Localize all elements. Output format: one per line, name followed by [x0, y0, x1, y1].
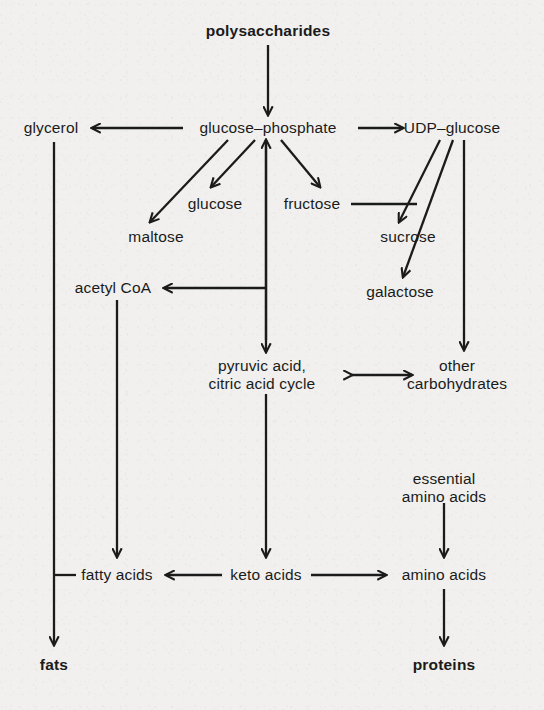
- node-label: pyruvic acid,: [218, 357, 306, 374]
- node-maltose: maltose: [128, 228, 183, 246]
- node-keto_acids: keto acids: [230, 566, 301, 584]
- node-label-line2: citric acid cycle: [209, 374, 316, 392]
- node-label: essential: [413, 470, 476, 487]
- node-udp_glucose: UDP–glucose: [404, 119, 500, 137]
- node-label: keto acids: [230, 566, 301, 583]
- node-label-line2: amino acids: [402, 487, 486, 505]
- node-label: fatty acids: [81, 566, 152, 583]
- node-fats: fats: [40, 656, 68, 674]
- node-polysaccharides: polysaccharides: [206, 22, 330, 40]
- node-glucose: glucose: [188, 195, 242, 213]
- node-label: sucrose: [380, 228, 435, 245]
- node-proteins: proteins: [413, 656, 476, 674]
- edge-udp-glucose-to-sucrose: [399, 140, 440, 222]
- node-amino_acids: amino acids: [402, 566, 486, 584]
- node-label-line2: carbohydrates: [407, 374, 507, 392]
- node-label: glycerol: [24, 119, 79, 136]
- node-label: fructose: [284, 195, 340, 212]
- node-label: other: [439, 357, 475, 374]
- node-label: galactose: [366, 283, 434, 300]
- node-label: polysaccharides: [206, 22, 330, 39]
- node-label: glucose–phosphate: [200, 119, 337, 136]
- node-label: maltose: [128, 228, 183, 245]
- edge-glucose-phosphate-to-glucose: [211, 140, 255, 187]
- node-fatty_acids: fatty acids: [81, 566, 152, 584]
- node-sucrose: sucrose: [380, 228, 435, 246]
- node-essential_aa: essentialamino acids: [402, 470, 486, 505]
- node-acetyl_coa: acetyl CoA: [75, 279, 151, 297]
- node-label: proteins: [413, 656, 476, 673]
- node-pyruvic: pyruvic acid,citric acid cycle: [209, 357, 316, 392]
- node-fructose: fructose: [284, 195, 340, 213]
- node-galactose: galactose: [366, 283, 434, 301]
- node-other_carbs: othercarbohydrates: [407, 357, 507, 392]
- node-label: UDP–glucose: [404, 119, 500, 136]
- node-label: fats: [40, 656, 68, 673]
- pathway-diagram-canvas: polysaccharidesglycerolglucose–phosphate…: [0, 0, 544, 710]
- edge-glucose-phosphate-to-fructose: [281, 140, 320, 187]
- node-glycerol: glycerol: [24, 119, 79, 137]
- node-label: acetyl CoA: [75, 279, 151, 296]
- edge-udp-glucose-to-galactose: [403, 140, 453, 277]
- node-glucose_phosphate: glucose–phosphate: [200, 119, 337, 137]
- pathway-edges: [0, 0, 544, 710]
- node-label: amino acids: [402, 566, 486, 583]
- node-label: glucose: [188, 195, 242, 212]
